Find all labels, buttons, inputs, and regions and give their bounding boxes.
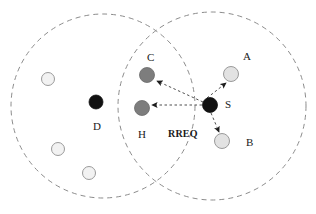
node-label-s: S — [225, 99, 231, 110]
node-s[interactable] — [203, 98, 218, 113]
diagram-vector-layer — [0, 0, 316, 214]
node-c[interactable] — [140, 68, 155, 83]
node-a[interactable] — [224, 67, 239, 82]
node-label-d: D — [93, 121, 101, 132]
node-label-h: H — [138, 129, 146, 140]
network-diagram-canvas: SABCHDRREQ — [0, 0, 316, 214]
node-n3[interactable] — [83, 167, 96, 180]
node-n2[interactable] — [52, 143, 65, 156]
node-layer — [42, 67, 239, 180]
node-n1[interactable] — [42, 73, 55, 86]
rreq-arrow-s-to-b — [211, 113, 219, 132]
node-label-a: A — [243, 51, 251, 62]
node-label-c: C — [147, 52, 154, 63]
transmission-range-layer — [11, 12, 306, 200]
left-transmission-range — [11, 14, 195, 198]
node-b[interactable] — [215, 134, 230, 149]
node-d[interactable] — [89, 95, 103, 109]
node-label-b: B — [246, 137, 253, 148]
rreq-arrow-s-to-c — [157, 81, 203, 102]
rreq-packet-label: RREQ — [168, 129, 198, 139]
node-h[interactable] — [135, 101, 150, 116]
rreq-arrow-s-to-a — [207, 83, 226, 98]
